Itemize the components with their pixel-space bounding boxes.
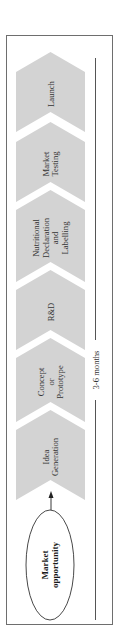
- process-diagram: IdeaGenerationConceptorPrototypeR&DNutri…: [0, 0, 117, 634]
- stage-nutritional-declaration: NutritionalDeclarationandLabelling: [16, 190, 85, 282]
- market-opportunity-line: opportunity: [50, 541, 60, 588]
- stage-idea-generation: IdeaGeneration: [16, 410, 85, 500]
- stage-label-line: Idea: [41, 449, 51, 464]
- stage-label: Launch: [46, 80, 56, 106]
- stage-chevrons: IdeaGenerationConceptorPrototypeR&DNutri…: [16, 52, 85, 500]
- stage-label: MarketTesting: [41, 151, 61, 177]
- timeline-duration-label: 3-6 months: [91, 350, 101, 390]
- stage-label-line: Testing: [50, 151, 60, 177]
- stage-label-line: Generation: [50, 437, 60, 476]
- stage-launch: Launch: [16, 52, 85, 132]
- stage-concept-prototype: ConceptorPrototype: [16, 338, 85, 422]
- stage-label-line: Concept: [36, 367, 46, 396]
- stage-label-line: Nutritional: [31, 219, 41, 257]
- stage-label: NutritionalDeclarationandLabelling: [31, 217, 70, 258]
- stage-label-line: R&D: [46, 303, 56, 322]
- stage-label-line: Declaration: [41, 217, 51, 258]
- stage-label-line: Market: [41, 151, 51, 176]
- stage-label: R&D: [46, 303, 56, 322]
- stage-label-line: Labelling: [60, 221, 70, 255]
- stage-label-line: or: [46, 378, 56, 385]
- stage-label-line: Launch: [46, 80, 56, 106]
- market-opportunity-line: Market: [40, 551, 50, 580]
- stage-label-line: and: [50, 231, 60, 244]
- stage-label-line: Prototype: [55, 365, 65, 399]
- arrowhead-icon: [49, 491, 54, 498]
